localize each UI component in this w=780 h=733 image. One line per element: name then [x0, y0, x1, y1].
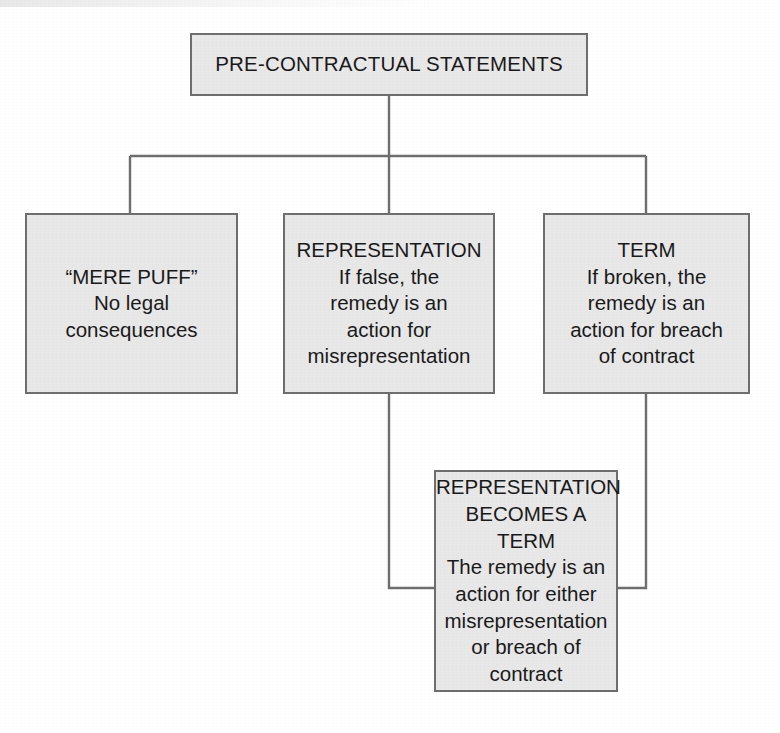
- flowchart-canvas: PRE-CONTRACTUAL STATEMENTS “MERE PUFF” N…: [0, 0, 780, 733]
- node-mere-puff[interactable]: “MERE PUFF” No legal consequences: [25, 213, 238, 394]
- node-representation[interactable]: REPRESENTATION If false, the remedy is a…: [283, 213, 495, 394]
- node-representation-becomes-a-term-label: REPRESENTATION BECOMES A TERM The remedy…: [436, 474, 616, 687]
- node-term-label: TERM If broken, the remedy is an action …: [545, 237, 748, 370]
- node-term[interactable]: TERM If broken, the remedy is an action …: [543, 213, 750, 394]
- node-mere-puff-label: “MERE PUFF” No legal consequences: [27, 264, 236, 344]
- edge-term-to-rep-becomes-term: [618, 394, 646, 588]
- node-representation-label: REPRESENTATION If false, the remedy is a…: [285, 237, 493, 370]
- node-pre-contractual-statements[interactable]: PRE-CONTRACTUAL STATEMENTS: [190, 33, 588, 96]
- edge-representation-to-rep-becomes-term: [389, 394, 434, 588]
- node-pre-contractual-statements-label: PRE-CONTRACTUAL STATEMENTS: [192, 51, 586, 78]
- node-representation-becomes-a-term[interactable]: REPRESENTATION BECOMES A TERM The remedy…: [434, 470, 618, 692]
